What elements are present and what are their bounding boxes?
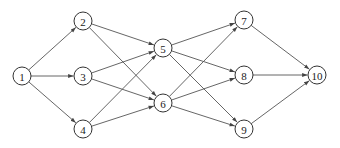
edge-5-to-9	[169, 54, 237, 122]
node-label: 1	[19, 71, 25, 83]
node-label: 10	[312, 70, 324, 82]
edge-5-to-7	[172, 23, 236, 45]
edge-1-to-2	[29, 27, 76, 70]
node-label: 9	[241, 124, 247, 136]
node-label: 3	[80, 71, 86, 83]
edge-1-to-4	[29, 82, 76, 123]
node-label: 8	[241, 70, 247, 82]
node-6: 6	[154, 94, 172, 112]
diagram-svg: 12345678910	[0, 0, 340, 148]
edge-6-to-8	[172, 78, 236, 100]
node-7: 7	[235, 11, 253, 29]
node-9: 9	[235, 120, 253, 138]
node-1: 1	[13, 67, 31, 85]
edge-3-to-5	[91, 51, 154, 73]
node-label: 2	[80, 16, 86, 28]
nodes-group: 12345678910	[13, 11, 326, 138]
node-label: 4	[80, 124, 86, 136]
node-8: 8	[235, 66, 253, 84]
edge-7-to-10	[251, 25, 309, 69]
node-4: 4	[74, 120, 92, 138]
edge-6-to-9	[172, 106, 235, 126]
edge-6-to-7	[169, 27, 237, 97]
edges-group	[29, 23, 310, 126]
network-diagram: 12345678910	[0, 0, 340, 148]
edge-3-to-6	[92, 79, 154, 100]
node-label: 5	[160, 43, 166, 55]
node-5: 5	[154, 39, 172, 57]
edge-4-to-6	[92, 106, 154, 126]
node-2: 2	[74, 12, 92, 30]
node-label: 7	[241, 15, 247, 27]
edge-9-to-10	[251, 81, 309, 124]
node-label: 6	[160, 98, 166, 110]
edge-2-to-5	[92, 24, 154, 45]
edge-4-to-5	[89, 55, 156, 123]
node-10: 10	[308, 66, 326, 84]
node-3: 3	[74, 67, 92, 85]
